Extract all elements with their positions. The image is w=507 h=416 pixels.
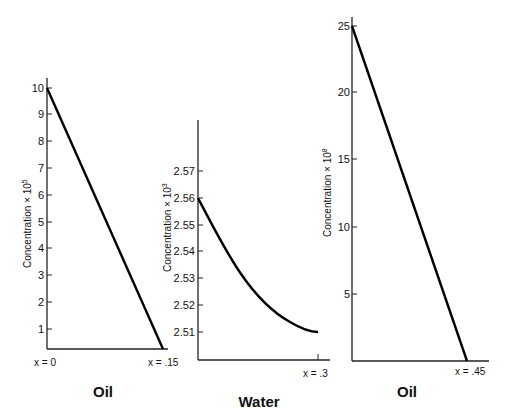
panel-oil-right: 25 20 15 10 5 Concentration × 108 x = .4… [321,17,489,400]
concentration-profile-figure: 10 9 8 7 6 5 4 3 2 1 Concentration × 105… [0,0,507,416]
oil-concentration-line [352,26,467,361]
panel-label-oil: Oil [93,383,113,400]
y-tick-25: 25 [338,20,350,32]
x-label-end: x = .3 [303,368,328,379]
y-tick-2: 2 [38,296,44,308]
y-tick-5: 5 [38,216,44,228]
y-tick-1: 1 [38,323,44,335]
x-label-start: x = 0 [34,357,56,368]
water-concentration-curve [198,198,318,332]
y-tick-10: 10 [32,82,44,94]
y-tick-15: 15 [338,153,350,165]
x-label-end: x = .45 [455,366,486,377]
oil-concentration-line [47,88,163,349]
y-tick-5: 5 [344,288,350,300]
y-axis-title: Concentration × 103 [161,183,173,272]
y-tick-2.54: 2.54 [174,245,195,257]
panel-oil-left: 10 9 8 7 6 5 4 3 2 1 Concentration × 105… [21,78,179,400]
y-tick-8: 8 [38,135,44,147]
y-tick-9: 9 [38,108,44,120]
y-tick-2.52: 2.52 [174,299,195,311]
panel-label-water: Water [238,393,279,410]
y-tick-3: 3 [38,269,44,281]
panel-water: 2.57 2.56 2.55 2.54 2.53 2.52 2.51 Conce… [161,120,330,410]
y-axis-title: Concentration × 108 [321,148,333,237]
x-label-end: x = .15 [148,357,179,368]
y-tick-6: 6 [38,189,44,201]
y-tick-7: 7 [38,162,44,174]
y-tick-2.56: 2.56 [174,192,195,204]
y-tick-2.51: 2.51 [174,326,195,338]
y-tick-20: 20 [338,86,350,98]
y-tick-2.53: 2.53 [174,272,195,284]
y-tick-4: 4 [38,242,44,254]
y-tick-2.57: 2.57 [174,165,195,177]
y-tick-10: 10 [338,221,350,233]
y-axis-title: Concentration × 105 [21,179,33,268]
y-tick-2.55: 2.55 [174,219,195,231]
panel-label-oil: Oil [397,383,417,400]
